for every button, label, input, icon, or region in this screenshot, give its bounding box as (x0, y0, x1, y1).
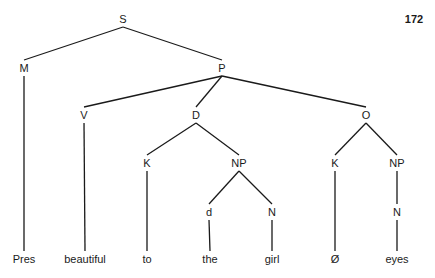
tree-node-p: P (218, 63, 225, 74)
tree-node-v: V (80, 110, 87, 121)
leaf-word-w6: Ø (331, 254, 340, 265)
tree-edge-O-K2 (335, 123, 366, 155)
tree-diagram (0, 0, 435, 278)
tree-edge-O-NP2 (366, 123, 397, 155)
tree-edge-d-w4 (209, 220, 210, 251)
leaf-word-w4: the (202, 254, 217, 265)
tree-edge-D-K1 (147, 123, 196, 155)
leaf-word-w7: eyes (385, 254, 408, 265)
leaf-word-w2: beautiful (64, 254, 106, 265)
tree-node-m: M (19, 63, 28, 74)
tree-edge-NP1-N1 (239, 171, 272, 204)
leaf-word-w1: Pres (13, 254, 36, 265)
tree-node-d: d (206, 207, 212, 218)
tree-node-k1: K (143, 158, 150, 169)
tree-node-k2: K (331, 158, 338, 169)
tree-node-n1: N (268, 207, 276, 218)
tree-node-d: D (192, 110, 200, 121)
tree-edge-S-M (24, 27, 123, 60)
page-number: 172 (405, 14, 423, 25)
leaf-word-w5: girl (265, 254, 280, 265)
tree-node-np1: NP (231, 158, 246, 169)
tree-node-n2: N (393, 207, 401, 218)
tree-edge-S-P (123, 27, 222, 60)
tree-edge-D-NP1 (196, 123, 239, 155)
tree-edge-NP1-d (209, 171, 239, 204)
tree-node-o: O (362, 110, 371, 121)
tree-node-s: S (119, 14, 126, 25)
leaf-word-w3: to (142, 254, 151, 265)
tree-edge-P-O (222, 76, 366, 107)
tree-node-np2: NP (389, 158, 404, 169)
tree-edge-P-V (84, 76, 222, 107)
tree-edge-V-w2 (84, 123, 85, 251)
